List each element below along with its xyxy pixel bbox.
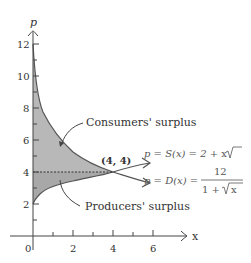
demand-equation: p = D(x) = 12 1 + x (144, 166, 243, 195)
x-tick-label-6: 6 (150, 243, 156, 254)
svg-text:p = D(x) =: p = D(x) = (144, 175, 198, 186)
sqrt-sign-icon (226, 147, 242, 158)
svg-text:p = S(x) = 2 + x: p = S(x) = 2 + x (144, 148, 227, 159)
y-tick-label-2: 2 (23, 199, 29, 210)
x-ticks (53, 230, 153, 236)
x-tick-label-0: 0 (25, 243, 31, 254)
consumers-surplus-region (33, 44, 113, 172)
x-axis-label: x (192, 230, 199, 243)
y-tick-label-10: 10 (17, 71, 30, 82)
x-tick-label-2: 2 (70, 243, 76, 254)
svg-text:1 + x: 1 + x (202, 184, 237, 195)
surplus-chart: p x 0 2 4 6 12 10 8 6 4 2 Consumers' sur… (0, 0, 251, 263)
equilibrium-label: (4, 4) (101, 155, 131, 167)
demand-numerator: 12 (214, 166, 227, 177)
y-tick-label-8: 8 (23, 103, 29, 114)
x-tick-label-4: 4 (110, 243, 116, 254)
supply-equation: p = S(x) = 2 + x (144, 147, 242, 159)
y-tick-label-4: 4 (23, 167, 29, 178)
consumers-surplus-leader (62, 123, 83, 143)
y-tick-label-6: 6 (23, 135, 29, 146)
producers-surplus-label: Producers' surplus (85, 200, 190, 213)
y-tick-label-12: 12 (17, 39, 30, 50)
consumers-surplus-label: Consumers' surplus (86, 116, 197, 129)
y-axis-label: p (30, 16, 37, 29)
